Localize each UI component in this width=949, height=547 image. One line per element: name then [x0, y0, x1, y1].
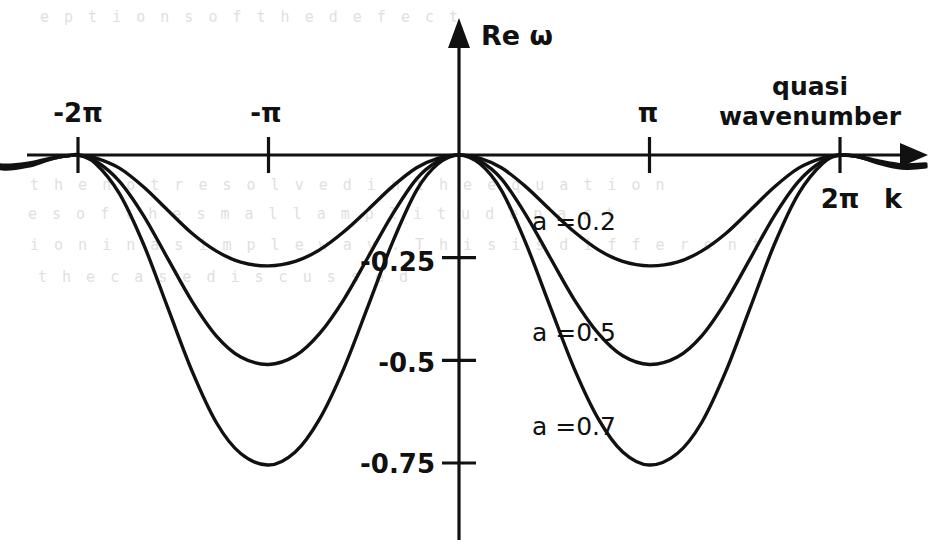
y-axis-title: Re ω [481, 20, 553, 51]
curve-label-a-0-7: a =0.7 [532, 412, 616, 441]
x-tick-label-minus-2pi: -2π [53, 98, 102, 128]
x-axis-caption-line-2: wavenumber [719, 102, 902, 131]
dispersion-relation-figure: -2π -π π 2π -0.25 -0.5 -0.75 Re ω k quas… [0, 0, 949, 547]
curve-label-a-0-5: a =0.5 [532, 318, 616, 347]
x-tick-label-minus-pi: -π [250, 98, 281, 128]
y-tick-label-minus-0-25: -0.25 [360, 247, 435, 277]
curve-label-a-0-2: a =0.2 [532, 207, 616, 236]
curve-a-0-7 [0, 154, 926, 465]
curves-group [0, 154, 926, 465]
y-axis-arrowhead [448, 18, 470, 48]
x-tick-label-pi: π [638, 98, 659, 128]
x-axis-caption-line-1: quasi [772, 72, 848, 101]
y-tick-label-minus-0-5: -0.5 [378, 348, 435, 378]
x-axis-title: k [884, 183, 903, 214]
curve-a-0-5 [0, 155, 926, 365]
y-tick-label-minus-0-75: -0.75 [360, 449, 435, 479]
x-tick-label-2pi: 2π [821, 184, 860, 214]
